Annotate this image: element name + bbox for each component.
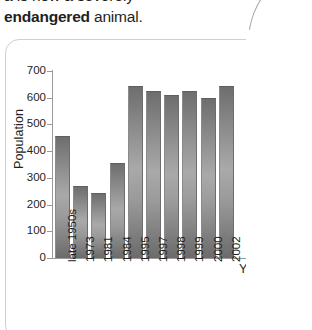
y-tick-label: 200 [2, 199, 46, 211]
x-tick-label: 2002 [231, 236, 243, 262]
y-tick-label: 500 [2, 118, 46, 130]
y-tick-mark [47, 205, 52, 206]
bar [128, 86, 143, 258]
y-axis-labels: 0100200300400500600700 [0, 0, 46, 330]
x-tick-label: late 1950s [67, 209, 79, 262]
y-tick-label: 400 [2, 145, 46, 157]
x-tick-label: 1984 [122, 236, 134, 262]
bar [182, 91, 197, 258]
x-tick-label: 1998 [176, 236, 188, 262]
plot-area [53, 71, 234, 258]
bar [164, 95, 179, 258]
y-tick-label: 100 [2, 225, 46, 237]
prose-rest: animal. [90, 8, 143, 25]
y-tick-mark [47, 151, 52, 152]
y-tick-label: 700 [2, 65, 46, 77]
y-tick-label: 0 [2, 252, 46, 264]
y-tick-mark [47, 124, 52, 125]
bar [219, 86, 234, 258]
bar [201, 98, 216, 258]
y-tick-label: 600 [2, 92, 46, 104]
y-tick-mark [47, 98, 52, 99]
x-tick-label: 2000 [213, 236, 225, 262]
x-tick-label: 1997 [158, 236, 170, 262]
panel-edge-mask [246, 30, 312, 330]
bar [146, 91, 161, 258]
x-tick-label: 1973 [85, 236, 97, 262]
x-axis-line [52, 258, 258, 259]
y-tick-label: 300 [2, 172, 46, 184]
x-tick-label: 1981 [103, 236, 115, 262]
y-tick-mark [47, 258, 52, 259]
y-tick-mark [47, 178, 52, 179]
y-tick-mark [47, 71, 52, 72]
y-tick-mark [47, 231, 52, 232]
x-tick-label: 1999 [194, 236, 206, 262]
x-tick-label: 1995 [140, 236, 152, 262]
